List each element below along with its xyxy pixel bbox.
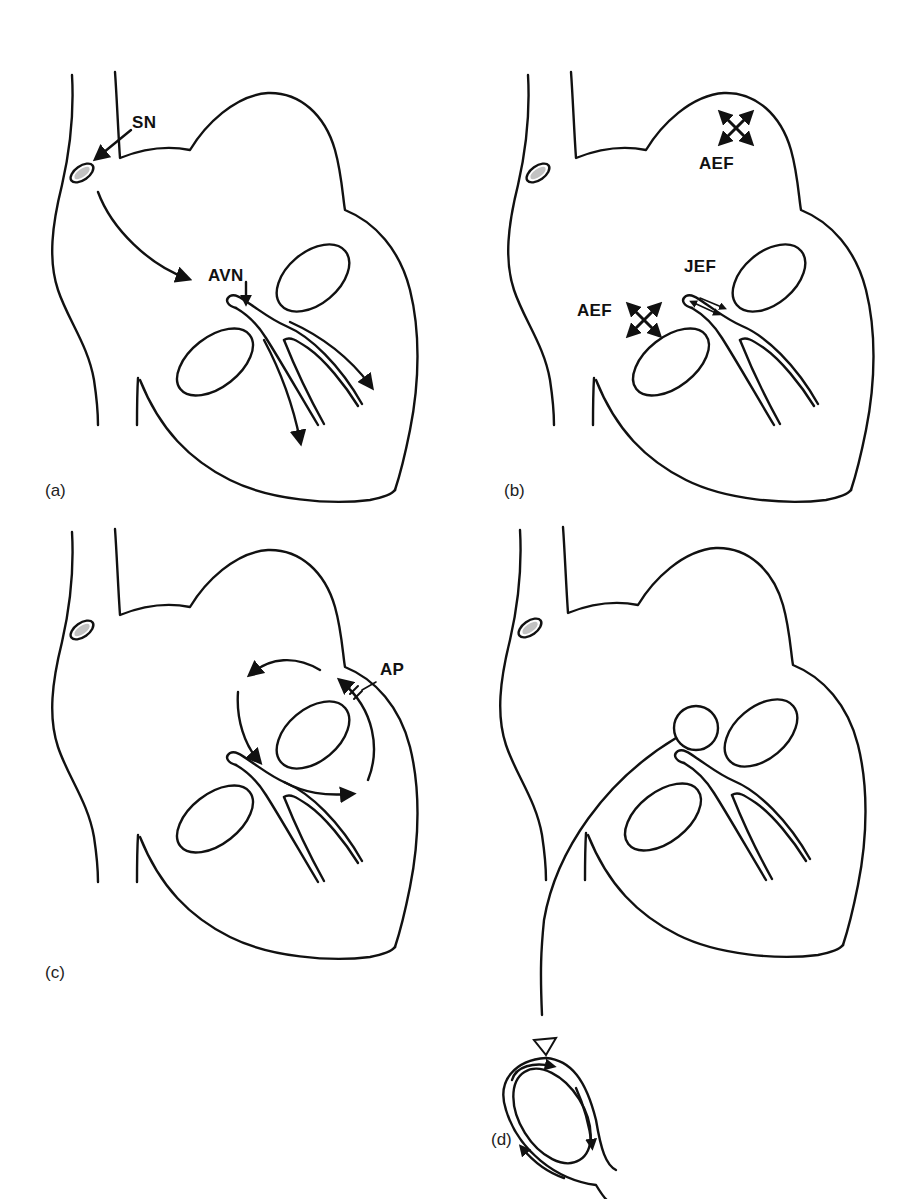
heart-diagram-normal-conduction bbox=[0, 0, 456, 510]
label-atrial-ectopic-focus-left: AEF bbox=[577, 301, 612, 321]
heart-diagram-av-nodal-reentry bbox=[456, 460, 912, 1199]
label-av-node: AVN bbox=[208, 266, 244, 286]
av-node-reentry-inset bbox=[497, 1055, 616, 1199]
panel-label-d: (d) bbox=[491, 1130, 512, 1150]
label-atrial-ectopic-focus-top: AEF bbox=[699, 154, 734, 174]
ectopic-focus-burst-icon bbox=[630, 306, 658, 334]
label-accessory-pathway: AP bbox=[380, 660, 404, 680]
label-sinus-node: SN bbox=[132, 113, 156, 133]
label-junctional-ectopic-focus: JEF bbox=[684, 257, 716, 277]
panel-c: AP (c) bbox=[0, 460, 456, 1000]
panel-d: (d) bbox=[456, 460, 912, 1199]
panel-a: SN AVN (a) bbox=[0, 0, 456, 510]
heart-diagram-ectopic-foci bbox=[456, 0, 912, 510]
heart-diagram-accessory-pathway bbox=[0, 460, 456, 1000]
panel-label-c: (c) bbox=[45, 963, 65, 983]
panel-b: AEF JEF AEF (b) bbox=[456, 0, 912, 510]
ectopic-focus-burst-icon bbox=[722, 114, 750, 142]
magnifier-circle bbox=[674, 706, 718, 750]
